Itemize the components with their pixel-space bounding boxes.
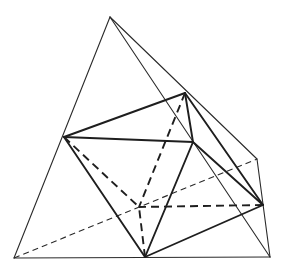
diagram-canvas bbox=[0, 0, 287, 276]
tetrahedron-edge-a-c bbox=[110, 17, 270, 257]
tetrahedron-octahedron-figure bbox=[0, 0, 287, 276]
octahedron-edge-p1-p3 bbox=[64, 137, 193, 142]
tetrahedron-edge-b-c bbox=[14, 257, 270, 258]
octahedron-edges bbox=[64, 93, 263, 257]
octahedron-edge-p4-p6 bbox=[139, 205, 263, 207]
octahedron-edge-p1-p2 bbox=[64, 93, 185, 137]
tetrahedron-edges bbox=[14, 17, 270, 258]
tetrahedron-edge-a-d bbox=[110, 17, 257, 159]
octahedron-edge-p2-p6 bbox=[139, 93, 185, 207]
octahedron-edge-p1-p5 bbox=[64, 137, 145, 257]
octahedron-edge-p3-p4 bbox=[193, 142, 263, 205]
tetrahedron-edge-c-d bbox=[257, 159, 270, 257]
octahedron-edge-p1-p6 bbox=[64, 137, 139, 207]
